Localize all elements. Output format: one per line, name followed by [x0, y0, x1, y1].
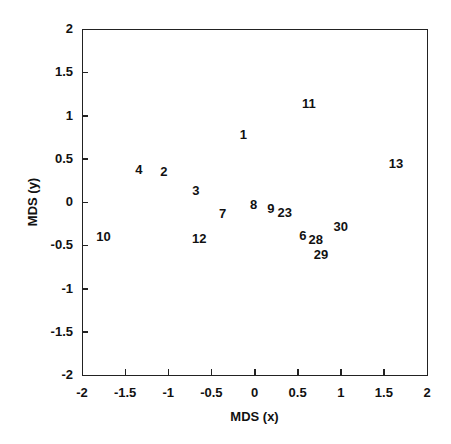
data-point-label: 23: [277, 206, 291, 220]
x-tick: [340, 369, 342, 375]
mds-scatter-chart: 21.510.50-0.5-1-1.5-2 -2-1.5-1-0.500.511…: [0, 0, 451, 444]
data-point-label: 10: [96, 230, 110, 244]
x-tick: [254, 369, 256, 375]
data-point-label: 7: [219, 207, 226, 221]
x-tick-label: -1.5: [105, 386, 145, 400]
x-tick: [168, 369, 170, 375]
data-point-label: 4: [135, 163, 142, 177]
x-tick-label: 0.5: [278, 386, 318, 400]
x-tick-label: 1: [321, 386, 361, 400]
data-point-label: 2: [160, 165, 167, 179]
x-tick-label: 2: [407, 386, 447, 400]
y-tick-label: 1.5: [33, 65, 73, 79]
y-tick-label: -1: [33, 282, 73, 296]
y-tick: [82, 245, 88, 247]
x-axis-title: MDS (x): [195, 410, 315, 424]
y-tick: [82, 288, 88, 290]
y-axis-title: MDS (y): [26, 142, 40, 262]
y-tick: [82, 202, 88, 204]
data-point-label: 3: [192, 184, 199, 198]
y-tick-label: 1: [33, 109, 73, 123]
data-point-label: 28: [309, 233, 323, 247]
y-tick: [82, 29, 88, 31]
data-point-label: 9: [267, 202, 274, 216]
data-point-label: 30: [334, 220, 348, 234]
x-tick: [383, 369, 385, 375]
y-tick: [82, 115, 88, 117]
x-tick: [211, 369, 213, 375]
x-tick-label: -1: [148, 386, 188, 400]
x-tick: [125, 369, 127, 375]
x-tick: [427, 369, 429, 375]
y-tick: [82, 72, 88, 74]
y-tick-label: -2: [33, 368, 73, 382]
y-tick-label: 2: [33, 22, 73, 36]
data-point-label: 8: [250, 198, 257, 212]
x-tick: [82, 369, 84, 375]
y-tick-label: -1.5: [33, 325, 73, 339]
data-point-label: 13: [389, 157, 403, 171]
data-point-label: 11: [302, 97, 316, 111]
data-point-label: 6: [299, 229, 306, 243]
x-tick-label: 0: [235, 386, 275, 400]
data-point-label: 29: [314, 248, 328, 262]
y-tick: [82, 331, 88, 333]
data-point-label: 12: [192, 232, 206, 246]
data-point-label: 1: [240, 128, 247, 142]
x-tick-label: -2: [62, 386, 102, 400]
x-tick-label: 1.5: [364, 386, 404, 400]
y-tick: [82, 158, 88, 160]
x-tick: [297, 369, 299, 375]
x-tick-label: -0.5: [191, 386, 231, 400]
